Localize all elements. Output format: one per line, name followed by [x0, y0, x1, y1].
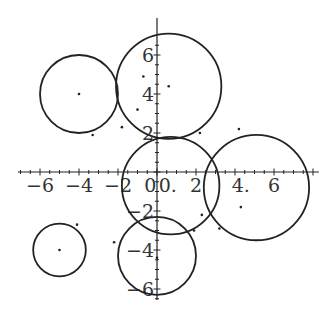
- x-tick-label: −2: [104, 174, 132, 196]
- data-point: [113, 241, 116, 244]
- data-point: [76, 223, 79, 226]
- x-tick-label: −6: [26, 174, 54, 196]
- x-tick-label: 0: [144, 174, 156, 196]
- data-point: [78, 93, 81, 96]
- circles: [33, 34, 309, 295]
- data-point: [91, 134, 94, 137]
- data-point: [58, 249, 61, 252]
- data-point: [238, 128, 241, 131]
- x-tick-label: 6: [268, 174, 280, 196]
- y-tick-label: −2: [126, 200, 154, 222]
- data-point: [218, 227, 221, 230]
- axes: [18, 18, 319, 300]
- data-point: [142, 75, 145, 78]
- data-point: [121, 126, 124, 129]
- data-point: [240, 206, 243, 209]
- data-point: [167, 85, 170, 88]
- x-tick-label: 4.: [232, 174, 250, 196]
- data-point: [199, 132, 202, 135]
- y-tick-label: −4: [126, 239, 154, 261]
- data-point: [156, 257, 159, 260]
- data-point: [136, 108, 139, 111]
- y-tick-label: −6: [126, 278, 154, 300]
- scatter-plot: −6−4−200.24.6642−2−4−6: [0, 0, 332, 318]
- y-tick-label: 6: [142, 44, 154, 66]
- x-tick-label: 0.: [159, 174, 177, 196]
- x-tick-label: 2: [190, 174, 202, 196]
- x-tick-label: −4: [65, 174, 93, 196]
- data-point: [201, 214, 204, 217]
- data-point: [193, 229, 196, 232]
- y-tick-label: 4: [142, 83, 154, 105]
